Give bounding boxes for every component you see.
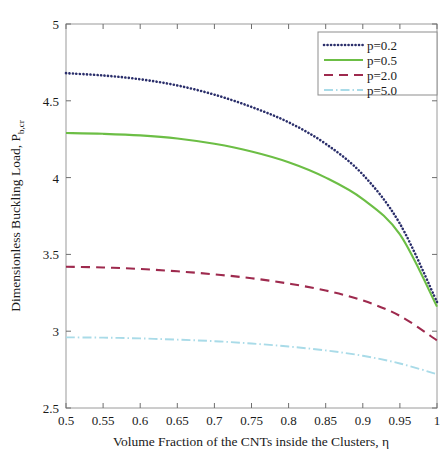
x-tick-label: 0.95 [389, 413, 412, 428]
y-tick-label: 4.5 [43, 94, 59, 109]
x-tick-label: 0.85 [314, 413, 337, 428]
x-tick-label: 0.8 [280, 413, 296, 428]
legend-label-p-5-0: p=5.0 [367, 83, 397, 98]
legend[interactable]: p=0.2p=0.5p=2.0p=5.0 [318, 32, 437, 98]
y-tick-label: 4 [53, 171, 60, 186]
legend-label-p-0-5: p=0.5 [367, 53, 397, 68]
x-tick-label: 0.6 [132, 413, 149, 428]
x-tick-label: 1 [434, 413, 441, 428]
figure-container: 0.50.550.60.650.70.750.80.850.90.951 2.5… [0, 0, 447, 455]
x-tick-label: 0.7 [206, 413, 223, 428]
y-tick-label: 2.5 [43, 401, 59, 416]
y-axis-title-main: Dimensionless Buckling Load, P [8, 134, 23, 312]
chart-canvas: 0.50.550.60.650.70.750.80.850.90.951 2.5… [0, 0, 447, 455]
y-axis-title-subscript: b,cr [16, 120, 26, 134]
legend-label-p-2-0: p=2.0 [367, 68, 397, 83]
x-tick-label: 0.55 [92, 413, 115, 428]
x-tick-label: 0.9 [355, 413, 371, 428]
legend-label-p-0-2: p=0.2 [367, 38, 397, 53]
y-tick-label: 5 [53, 17, 60, 32]
x-tick-label: 0.75 [240, 413, 263, 428]
y-axis-title: Dimensionless Buckling Load, Pb,cr [8, 120, 26, 312]
y-axis-tick-labels: 2.533.544.55 [43, 17, 60, 416]
x-tick-label: 0.65 [166, 413, 189, 428]
y-axis-title-group: Dimensionless Buckling Load, Pb,cr [8, 120, 26, 312]
x-axis-tick-labels: 0.50.550.60.650.70.750.80.850.90.951 [58, 413, 440, 428]
y-tick-label: 3.5 [43, 247, 59, 262]
x-axis-title: Volume Fraction of the CNTs inside the C… [113, 434, 389, 449]
x-tick-label: 0.5 [58, 413, 74, 428]
y-tick-label: 3 [53, 324, 60, 339]
